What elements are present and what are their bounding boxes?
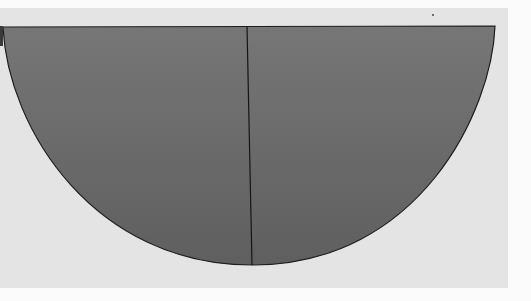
left-edge-shadow [0, 26, 3, 46]
artwork [0, 0, 531, 301]
speck [432, 14, 434, 16]
